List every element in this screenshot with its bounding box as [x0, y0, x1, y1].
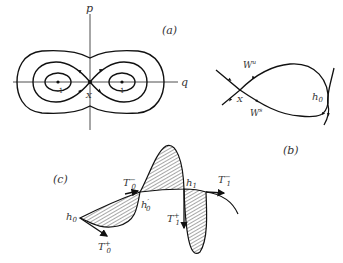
t1-plus-label: T+1 — [167, 212, 180, 227]
panel-c-label: (c) — [53, 173, 68, 186]
center-point-left — [56, 80, 59, 83]
panel-a: p q (a) −1 1 X — [13, 2, 188, 130]
w-unstable-label: Wu — [243, 58, 256, 70]
panel-c: (c) h0 h′0 h1 T−0 T+0 T−1 T+1 — [53, 145, 238, 255]
p-axis-label: p — [86, 2, 93, 15]
h0-label-b: h0 — [312, 91, 323, 104]
tick-label-minus-one: −1 — [53, 87, 63, 95]
lobe-2 — [140, 145, 184, 192]
t0-minus-label: T−0 — [123, 176, 137, 191]
saddle-label-b: X — [236, 95, 243, 104]
center-point-right — [120, 80, 123, 83]
figure-canvas: p q (a) −1 1 X Wu Ws X h0 (b) (c) — [0, 0, 343, 263]
panel-b: Wu Ws X h0 (b) — [216, 58, 334, 157]
t1-minus-label: T−1 — [218, 173, 231, 188]
panel-a-label: (a) — [162, 24, 177, 37]
stable-manifold-branch — [324, 68, 334, 125]
h1-label: h1 — [186, 177, 197, 190]
saddle-point — [88, 80, 92, 84]
q-axis-label: q — [181, 76, 188, 89]
w-stable-label: Ws — [250, 106, 262, 118]
tick-label-one: 1 — [120, 87, 124, 95]
panel-b-label: (b) — [283, 144, 299, 157]
lobe-1 — [80, 192, 140, 227]
h0-label-c: h0 — [66, 211, 77, 224]
t0-plus-label: T+0 — [98, 240, 112, 255]
lobe-3 — [184, 189, 207, 253]
h0-prime-label: h′0 — [141, 198, 151, 213]
saddle-label: X — [85, 91, 92, 100]
stable-manifold-c — [206, 192, 238, 214]
